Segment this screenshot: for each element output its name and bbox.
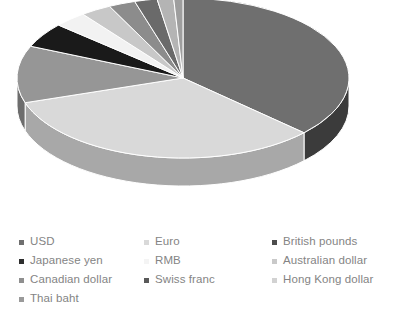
legend-swatch-icon (144, 259, 149, 264)
legend-row: Japanese yen RMB Australian dollar (0, 251, 396, 270)
legend-swatch-icon (19, 278, 24, 283)
legend-swatch-icon (272, 278, 277, 283)
legend-item-label: Hong Kong dollar (283, 273, 373, 286)
legend-swatch-icon (144, 240, 149, 245)
legend-item-thai-baht[interactable]: Thai baht (0, 292, 125, 305)
legend-item-canadian-dollar[interactable]: Canadian dollar (0, 273, 125, 286)
pie-chart-figure: USD Euro British pounds Japanese yen RMB (0, 0, 396, 310)
legend-item-label: Euro (155, 235, 180, 248)
legend-item-label: Swiss franc (155, 273, 215, 286)
legend-swatch-icon (272, 240, 277, 245)
legend-item-usd[interactable]: USD (0, 235, 125, 248)
legend-row: Canadian dollar Swiss franc Hong Kong do… (0, 270, 396, 289)
legend-item-british-pounds[interactable]: British pounds (253, 235, 396, 248)
pie-plot-area (0, 0, 396, 226)
legend-item-australian-dollar[interactable]: Australian dollar (253, 254, 396, 267)
pie-top-slices (17, 0, 349, 158)
legend-item-hong-kong-dollar[interactable]: Hong Kong dollar (253, 273, 396, 286)
legend-item-label: RMB (155, 254, 181, 267)
legend-item-label: USD (30, 235, 55, 248)
legend-item-label: Thai baht (30, 292, 79, 305)
legend-item-euro[interactable]: Euro (125, 235, 253, 248)
legend-swatch-icon (19, 259, 24, 264)
legend-item-japanese-yen[interactable]: Japanese yen (0, 254, 125, 267)
pie-svg (0, 0, 396, 226)
legend-swatch-icon (272, 259, 277, 264)
legend-item-swiss-franc[interactable]: Swiss franc (125, 273, 253, 286)
legend-row: Thai baht (0, 289, 396, 308)
legend-swatch-icon (19, 240, 24, 245)
legend-item-label: British pounds (283, 235, 357, 248)
legend-item-rmb[interactable]: RMB (125, 254, 253, 267)
legend-item-label: Canadian dollar (30, 273, 112, 286)
chart-legend: USD Euro British pounds Japanese yen RMB (0, 228, 396, 310)
legend-row: USD Euro British pounds (0, 232, 396, 251)
legend-swatch-icon (144, 278, 149, 283)
legend-item-label: Australian dollar (283, 254, 367, 267)
legend-item-label: Japanese yen (30, 254, 103, 267)
legend-swatch-icon (19, 297, 24, 302)
